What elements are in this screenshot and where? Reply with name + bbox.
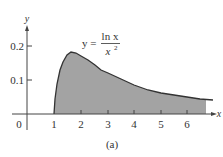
equation-lhs: y = bbox=[82, 37, 96, 49]
x-tick-1: 1 bbox=[51, 118, 57, 130]
figure-caption: (a) bbox=[106, 138, 119, 151]
x-tick-0: 0 bbox=[16, 118, 22, 130]
y-ticks bbox=[27, 46, 32, 80]
chart: 0 1 2 3 4 5 6 0.1 0.2 x y y = ln x x 2 (… bbox=[0, 0, 223, 157]
x-tick-6: 6 bbox=[184, 118, 190, 130]
y-axis-arrow-icon bbox=[25, 25, 29, 31]
equation-denominator: x bbox=[105, 45, 111, 57]
equation-exponent: 2 bbox=[114, 44, 118, 52]
equation-numerator: ln x bbox=[102, 30, 119, 42]
x-tick-2: 2 bbox=[78, 118, 84, 130]
y-axis-label: y bbox=[24, 13, 30, 24]
y-tick-0.1: 0.1 bbox=[10, 74, 24, 86]
x-tick-5: 5 bbox=[158, 118, 164, 130]
x-tick-4: 4 bbox=[131, 118, 137, 130]
x-tick-3: 3 bbox=[105, 118, 111, 130]
y-tick-0.2: 0.2 bbox=[10, 40, 24, 52]
x-axis-label: x bbox=[216, 108, 222, 119]
